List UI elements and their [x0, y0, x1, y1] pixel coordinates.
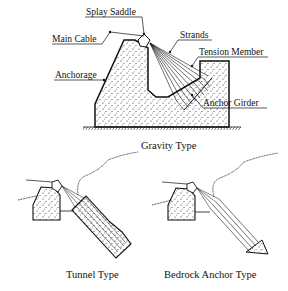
label-main-cable: Main Cable	[52, 34, 97, 44]
terrain-line	[213, 153, 278, 197]
gravity-type-figure: Splay Saddle Main Cable Strands Tension …	[52, 7, 268, 151]
label-anchor-girder: Anchor Girder	[203, 98, 259, 108]
tunnel-type-figure: Tunnel Type	[18, 152, 138, 280]
main-cable	[162, 182, 187, 184]
leader-splay-saddle	[85, 17, 144, 34]
caption-gravity-type: Gravity Type	[141, 140, 197, 151]
label-splay-saddle: Splay Saddle	[86, 7, 136, 17]
caption-bedrock-anchor-type: Bedrock Anchor Type	[164, 269, 257, 280]
label-tension-member: Tension Member	[199, 47, 264, 57]
terrain-line	[78, 152, 138, 195]
anchorage-types-diagram: Splay Saddle Main Cable Strands Tension …	[0, 0, 288, 291]
bedrock-anchor-plate	[246, 240, 268, 254]
anchorage-block	[33, 187, 60, 220]
bedrock-anchor-type-figure: Bedrock Anchor Type	[152, 153, 278, 280]
label-strands: Strands	[180, 30, 209, 40]
caption-tunnel-type: Tunnel Type	[66, 269, 119, 280]
main-cable	[26, 180, 52, 182]
anchorage-block	[168, 188, 195, 220]
bedrock-tendons	[210, 199, 259, 252]
label-anchorage: Anchorage	[55, 70, 97, 80]
